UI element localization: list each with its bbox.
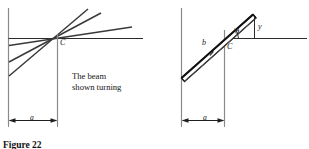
- beam-length-b-label: b: [202, 38, 206, 48]
- beam-note-line-2: shown turning: [72, 82, 121, 92]
- left-point-c-label: C: [60, 38, 65, 48]
- right-dimension-arrow-right: [218, 118, 225, 123]
- beam-lower-edge: [185, 18, 257, 82]
- beam-note-line-1: The beam: [72, 71, 106, 81]
- right-dimension-arrow-left: [182, 118, 189, 123]
- figure-caption: Figure 22: [3, 140, 42, 149]
- beam-upper-edge: [182, 15, 254, 79]
- left-beam-line-3: [9, 9, 88, 76]
- left-dimension-arrow-left: [9, 118, 16, 123]
- rise-y-label: y: [258, 22, 262, 32]
- right-point-c-label: C: [227, 42, 232, 52]
- left-dimension-a-label: a: [30, 114, 34, 123]
- right-panel-group: [182, 8, 308, 127]
- left-dimension-arrow-right: [51, 118, 58, 123]
- left-panel-group: [9, 8, 144, 127]
- angle-theta-label: θ: [235, 27, 239, 37]
- right-dimension-a-label: a: [203, 114, 207, 123]
- beam-body: [182, 15, 257, 82]
- figure-drawing: [0, 0, 309, 149]
- figure-container: C a The beam shown turning C a b y θ Fig…: [0, 0, 309, 149]
